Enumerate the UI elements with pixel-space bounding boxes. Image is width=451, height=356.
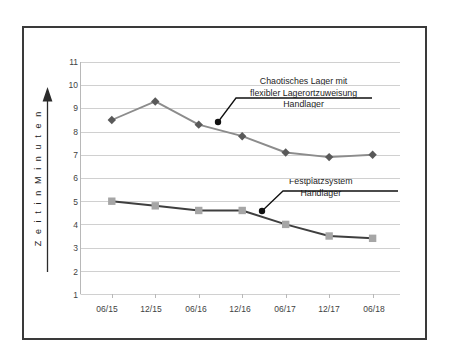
leader-anchor-dot-chaotisches-lager [215,119,221,125]
data-point-s1-06-15 [108,116,116,124]
data-point-s2-06-15 [108,198,115,205]
leader-anchor-dot-festplatzsystem [259,208,265,214]
data-point-s1-06-18 [368,151,376,159]
data-point-s1-12-16 [238,132,246,140]
chart-plot-area [0,0,451,356]
data-point-s1-12-15 [151,97,159,105]
gridlines-group [81,63,401,295]
series-2 [108,198,376,243]
up-arrow-icon [43,87,53,272]
data-point-s1-12-17 [325,153,333,161]
series-1 [108,97,377,161]
data-point-s2-06-16 [195,207,202,214]
chart-figure: Z e i t i n M i n u t e n 11 10 9 8 7 6 … [0,0,451,356]
data-point-s2-06-17 [282,221,289,228]
data-point-s2-06-18 [369,235,376,242]
data-point-s2-12-17 [325,232,332,239]
data-point-s2-12-16 [239,207,246,214]
data-point-s2-12-15 [152,202,159,209]
series-line-1 [112,101,373,157]
data-point-s1-06-16 [195,120,203,128]
data-series-group [108,97,377,242]
series-line-2 [112,201,373,238]
leader-line-chaotisches-lager [218,98,372,122]
